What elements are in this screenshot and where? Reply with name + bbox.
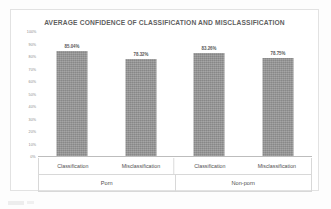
- group-row: PornNon-porn: [39, 175, 311, 191]
- y-axis-tick-label: 10%: [29, 143, 36, 147]
- y-axis-tick-label: 0%: [31, 155, 36, 159]
- bar: [194, 53, 225, 156]
- category-row: ClassificationMisclassificationClassific…: [39, 158, 311, 175]
- y-axis-tick-label: 70%: [29, 68, 36, 72]
- scan-artifact-secondary: [27, 201, 34, 204]
- bar-value-label: 78.32%: [133, 52, 148, 57]
- category-axis-table: ClassificationMisclassificationClassific…: [38, 158, 312, 192]
- bar: [57, 51, 88, 156]
- y-axis-tick-label: 90%: [29, 43, 36, 47]
- y-axis: 100%90%80%70%60%50%40%30%20%10%0%: [19, 32, 37, 157]
- category-label: Misclassification: [245, 158, 309, 174]
- y-axis-tick-label: 80%: [29, 55, 36, 59]
- y-axis-tick-label: 30%: [29, 118, 36, 122]
- category-label: Classification: [177, 158, 241, 174]
- bar: [125, 59, 156, 156]
- x-axis-line: [38, 156, 312, 157]
- y-axis-tick-label: 60%: [29, 80, 36, 84]
- category-label: Misclassification: [108, 158, 173, 174]
- y-axis-tick-label: 50%: [29, 93, 36, 97]
- group-label: Porn: [39, 175, 176, 191]
- bar-slot: 78.75%: [244, 32, 313, 156]
- scan-artifact: [8, 201, 24, 205]
- bar-value-label: 78.75%: [270, 52, 285, 57]
- bar: [262, 58, 293, 156]
- category-label: Classification: [41, 158, 105, 174]
- bar-slot: 78.32%: [107, 32, 176, 156]
- bar-value-label: 85.04%: [65, 44, 80, 49]
- chart-plot-frame: AVERAGE CONFIDENCE OF CLASSIFICATION AND…: [10, 9, 319, 191]
- y-axis-tick-label: 20%: [29, 130, 36, 134]
- bar-slot: 85.04%: [38, 32, 107, 156]
- bar-slot: 83.26%: [175, 32, 244, 156]
- y-axis-tick-label: 40%: [29, 105, 36, 109]
- bar-value-label: 83.26%: [202, 46, 217, 51]
- plot-wrapper: 100%90%80%70%60%50%40%30%20%10%0% 85.04%…: [19, 32, 312, 184]
- chart-figure: AVERAGE CONFIDENCE OF CLASSIFICATION AND…: [0, 0, 331, 209]
- y-axis-tick-label: 100%: [26, 30, 36, 34]
- plot-area: 85.04%78.32%83.26%78.75%: [38, 32, 312, 157]
- chart-title: AVERAGE CONFIDENCE OF CLASSIFICATION AND…: [22, 18, 308, 27]
- group-label: Non-porn: [176, 175, 312, 191]
- bar-series: 85.04%78.32%83.26%78.75%: [38, 32, 312, 156]
